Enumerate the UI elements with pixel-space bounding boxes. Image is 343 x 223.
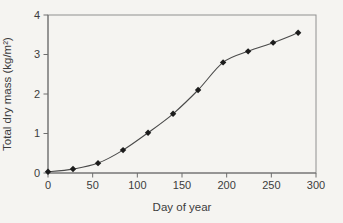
data-point-marker [45, 169, 51, 175]
plot-frame-box [48, 15, 316, 173]
data-series [45, 30, 302, 175]
y-tick-label: 2 [34, 88, 40, 100]
data-point-marker [95, 160, 101, 166]
data-point-marker [120, 147, 126, 153]
x-tick-label: 0 [45, 179, 51, 191]
x-axis-ticks: 050100150200250300 [45, 173, 325, 191]
x-tick-label: 150 [173, 179, 191, 191]
x-tick-label: 300 [307, 179, 325, 191]
x-tick-label: 100 [128, 179, 146, 191]
data-point-marker [270, 39, 276, 45]
plot-frame [48, 15, 316, 173]
y-tick-label: 0 [34, 167, 40, 179]
y-axis-ticks: 01234 [34, 9, 48, 179]
y-tick-label: 4 [34, 9, 40, 21]
y-tick-label: 1 [34, 127, 40, 139]
data-series-line [48, 33, 298, 172]
x-tick-label: 200 [217, 179, 235, 191]
growth-curve-figure: 050100150200250300 01234 Day of year Tot… [0, 0, 343, 223]
growth-curve-chart: 050100150200250300 01234 Day of year Tot… [0, 0, 343, 223]
x-tick-label: 250 [262, 179, 280, 191]
x-axis-label: Day of year [153, 201, 212, 213]
data-point-marker [295, 30, 301, 36]
y-axis-label: Total dry mass (kg/m²) [1, 37, 13, 151]
x-tick-label: 50 [87, 179, 99, 191]
y-tick-label: 3 [34, 48, 40, 60]
data-point-marker [70, 166, 76, 172]
data-point-marker [245, 48, 251, 54]
